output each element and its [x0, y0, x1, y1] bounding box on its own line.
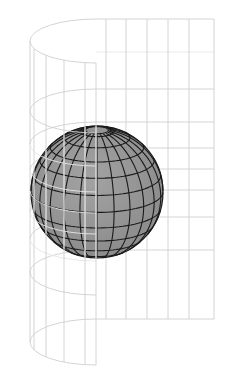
projection-diagram	[0, 0, 229, 380]
globe	[31, 126, 163, 258]
